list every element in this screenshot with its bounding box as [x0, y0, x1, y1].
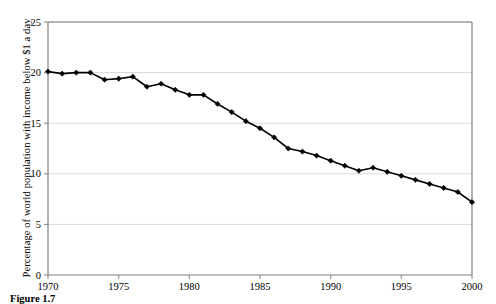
data-point-marker — [342, 163, 347, 168]
x-tick-label: 1990 — [320, 281, 341, 292]
data-point-marker — [356, 168, 361, 173]
data-point-marker — [427, 181, 432, 186]
figure-caption: Figure 1.7 — [10, 293, 55, 304]
y-tick-label: 25 — [31, 17, 42, 28]
x-tick-label: 2000 — [462, 281, 483, 292]
y-tick-label: 20 — [31, 67, 42, 78]
x-tick-label: 1975 — [108, 281, 129, 292]
data-point-marker — [88, 70, 93, 75]
data-point-marker — [314, 153, 319, 158]
y-tick-label: 10 — [31, 168, 42, 179]
data-point-marker — [370, 165, 375, 170]
series-line-group — [48, 72, 472, 203]
y-tick-label: 5 — [36, 219, 41, 230]
x-tick-label: 1995 — [391, 281, 412, 292]
y-tick-group: 0510152025 — [31, 17, 49, 281]
data-point-marker — [328, 158, 333, 163]
x-tick-label: 1980 — [179, 281, 200, 292]
x-tick-label: 1985 — [250, 281, 271, 292]
series-line — [48, 72, 472, 203]
data-point-marker — [173, 87, 178, 92]
data-point-marker — [441, 185, 446, 190]
data-point-marker — [102, 77, 107, 82]
figure-root: Percentage of world population with inco… — [0, 0, 496, 304]
data-point-marker — [413, 177, 418, 182]
data-point-marker — [300, 149, 305, 154]
data-point-marker — [74, 70, 79, 75]
series-marker-group — [45, 69, 474, 205]
data-point-marker — [60, 71, 65, 76]
data-point-marker — [116, 76, 121, 81]
axes-group — [48, 22, 472, 275]
x-tick-group: 1970197519801985199019952000 — [38, 275, 483, 292]
data-point-marker — [187, 92, 192, 97]
x-tick-label: 1970 — [38, 281, 59, 292]
y-tick-label: 15 — [31, 118, 42, 129]
y-tick-label: 0 — [36, 270, 41, 281]
data-point-marker — [158, 81, 163, 86]
line-chart-plot: 0510152025 1970197519801985199019952000 — [0, 0, 496, 304]
gridlines-group — [48, 22, 472, 224]
data-point-marker — [45, 69, 50, 74]
